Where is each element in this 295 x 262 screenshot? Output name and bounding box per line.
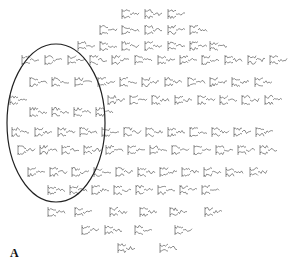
sensor-glyph	[210, 41, 227, 51]
sensor-glyph	[100, 41, 117, 51]
sensor-glyph	[18, 145, 35, 155]
sensor-glyph	[114, 185, 131, 195]
sensor-glyph	[145, 41, 162, 51]
sensor-glyph	[168, 9, 185, 19]
sensor-glyph	[212, 127, 229, 137]
sensor-glyph	[12, 127, 29, 137]
sensor-glyph	[182, 167, 199, 177]
sensor-glyph	[62, 145, 79, 155]
sensor-glyph	[80, 127, 97, 137]
sensor-glyph	[75, 77, 92, 87]
sensor-glyph	[194, 145, 211, 155]
sensor-glyph	[165, 77, 182, 87]
sensor-glyph	[72, 167, 89, 177]
sensor-waveform-figure: A	[0, 0, 295, 262]
sensor-glyph	[256, 127, 273, 137]
sensor-glyph	[168, 25, 185, 35]
sensor-glyph	[142, 77, 159, 87]
sensor-glyph	[172, 145, 189, 155]
sensor-glyph	[238, 145, 255, 155]
sensor-glyph	[145, 25, 162, 35]
sensor-glyph	[136, 185, 153, 195]
sensor-glyph	[175, 225, 192, 235]
sensor-glyph	[90, 55, 107, 65]
sensor-glyph	[202, 185, 219, 195]
sensor-glyph	[168, 41, 185, 51]
sensor-glyph	[82, 225, 99, 235]
sensor-glyph	[232, 77, 249, 87]
sensor-glyph	[105, 225, 122, 235]
sensor-glyph	[160, 167, 177, 177]
sensor-glyph	[128, 145, 145, 155]
sensor-glyph	[152, 95, 169, 105]
sensor-glyph	[122, 25, 139, 35]
sensor-glyph	[116, 167, 133, 177]
sensor-glyph	[216, 145, 233, 155]
waveform-topography-plot	[0, 0, 295, 262]
sensor-glyph	[58, 127, 75, 137]
sensor-glyph	[138, 167, 155, 177]
sensor-glyph	[30, 107, 47, 117]
sensor-glyph	[48, 185, 65, 195]
sensor-glyph	[35, 127, 52, 137]
sensor-glyph	[248, 55, 265, 65]
sensor-glyph	[50, 167, 67, 177]
sensor-glyph	[190, 25, 207, 35]
sensor-glyph	[122, 9, 139, 19]
sensor-glyph	[135, 55, 152, 65]
sensor-glyph	[180, 55, 197, 65]
sensor-glyph	[120, 77, 137, 87]
sensor-glyph	[135, 225, 152, 235]
sensor-glyph	[78, 41, 95, 51]
sensor-glyph	[108, 95, 125, 105]
sensor-glyph	[220, 95, 237, 105]
sensor-glyph	[205, 207, 222, 217]
sensor-glyph	[225, 55, 242, 65]
sensor-glyph	[84, 145, 101, 155]
sensor-glyphs	[10, 9, 287, 253]
sensor-glyph	[265, 95, 282, 105]
sensor-glyph	[190, 127, 207, 137]
sensor-glyph	[180, 185, 197, 195]
sensor-glyph	[118, 243, 135, 253]
sensor-glyph	[112, 55, 129, 65]
sensor-glyph	[150, 145, 167, 155]
sensor-glyph	[198, 95, 215, 105]
sensor-glyph	[234, 127, 251, 137]
sensor-glyph	[255, 77, 272, 87]
sensor-glyph	[188, 77, 205, 87]
sensor-glyph	[158, 55, 175, 65]
sensor-glyph	[122, 41, 139, 51]
sensor-glyph	[45, 55, 62, 65]
sensor-glyph	[106, 145, 123, 155]
sensor-glyph	[30, 77, 47, 87]
sensor-glyph	[52, 107, 69, 117]
sensor-glyph	[202, 55, 219, 65]
sensor-glyph	[124, 127, 141, 137]
panel-label: A	[10, 246, 19, 261]
sensor-glyph	[140, 207, 157, 217]
sensor-glyph	[175, 95, 192, 105]
sensor-glyph	[226, 167, 243, 177]
sensor-glyph	[110, 207, 127, 217]
sensor-glyph	[146, 127, 163, 137]
sensor-glyph	[170, 207, 187, 217]
sensor-glyph	[48, 207, 65, 217]
sensor-glyph	[40, 145, 57, 155]
sensor-glyph	[130, 95, 147, 105]
sensor-glyph	[158, 185, 175, 195]
sensor-glyph	[204, 167, 221, 177]
sensor-glyph	[92, 185, 109, 195]
sensor-glyph	[242, 95, 259, 105]
sensor-glyph	[210, 77, 227, 87]
highlight-ellipse	[7, 44, 105, 202]
sensor-glyph	[100, 25, 117, 35]
sensor-glyph	[22, 55, 39, 65]
sensor-glyph	[260, 145, 277, 155]
sensor-glyph	[98, 77, 115, 87]
sensor-glyph	[52, 77, 69, 87]
sensor-glyph	[160, 243, 177, 253]
sensor-glyph	[190, 41, 207, 51]
sensor-glyph	[10, 95, 27, 105]
sensor-glyph	[75, 207, 92, 217]
